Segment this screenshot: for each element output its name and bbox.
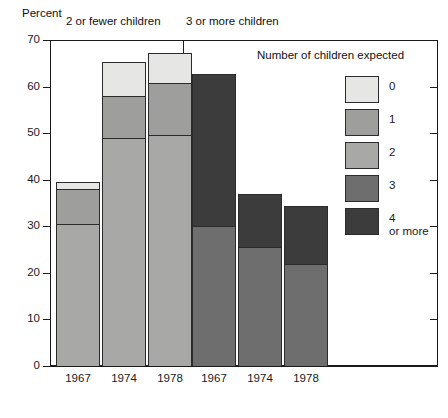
- bar-segment-0: [56, 182, 100, 190]
- bar-segment-1: [148, 83, 192, 137]
- y-tick-mark: [43, 273, 51, 274]
- y-tick-mark: [43, 87, 51, 88]
- y-axis-line: [50, 40, 51, 366]
- y-tick-mark-right: [430, 180, 438, 181]
- bar-segment-3: [284, 264, 328, 367]
- group-label-two-or-fewer: 2 or fewer children: [66, 16, 161, 27]
- legend-label: 3: [389, 179, 395, 192]
- y-tick-label: 70: [8, 34, 40, 46]
- y-tick-label: 0: [8, 360, 40, 372]
- y-tick-mark-right: [430, 87, 438, 88]
- legend-label: 1: [389, 113, 395, 126]
- bar-segment-1: [56, 189, 100, 225]
- y-tick-mark: [43, 133, 51, 134]
- bar-segment-2: [148, 135, 192, 367]
- y-tick-mark-right: [430, 273, 438, 274]
- bar-segment-0: [102, 62, 146, 97]
- x-axis-label: 1978: [278, 372, 334, 384]
- legend-label: 4: [389, 212, 395, 225]
- y-tick-mark: [43, 180, 51, 181]
- x-axis-line: [50, 366, 438, 367]
- legend-swatch: [345, 109, 379, 136]
- bar-3-or-more-children-1967: [192, 74, 236, 366]
- legend-swatch: [345, 142, 379, 169]
- group-label-three-or-more: 3 or more children: [186, 16, 279, 27]
- bar-segment-4-or-more: [238, 194, 282, 249]
- y-tick-label: 40: [8, 174, 40, 186]
- y-axis-ticks: 010203040506070: [0, 0, 50, 418]
- y-tick-mark: [43, 226, 51, 227]
- bar-segment-3: [238, 247, 282, 367]
- bar-segment-0: [148, 53, 192, 84]
- bar-3-or-more-children-1974: [238, 194, 282, 366]
- bar-3-or-more-children-1978: [284, 206, 328, 366]
- legend-swatch: [345, 175, 379, 202]
- bar-segment-2: [56, 224, 100, 367]
- y-tick-label: 10: [8, 313, 40, 325]
- y-tick-label: 30: [8, 220, 40, 232]
- y-tick-label: 50: [8, 127, 40, 139]
- bar-segment-4-or-more: [284, 206, 328, 264]
- legend-label-secondary: or more: [389, 225, 429, 238]
- y-tick-mark-right: [430, 319, 438, 320]
- legend-title: Number of children expected: [257, 50, 404, 61]
- legend-swatch: [345, 208, 379, 235]
- bar-2-or-fewer-children-1967: [56, 182, 100, 366]
- bar-2-or-fewer-children-1978: [148, 53, 192, 366]
- y-tick-mark-right: [430, 133, 438, 134]
- legend-label: 2: [389, 146, 395, 159]
- stacked-bar-chart: Percent 2 or fewer children 3 or more ch…: [0, 0, 448, 418]
- y-tick-mark-right: [430, 226, 438, 227]
- bar-segment-3: [192, 226, 236, 367]
- bar-segment-1: [102, 96, 146, 139]
- y-tick-mark: [43, 40, 51, 41]
- bar-segment-4-or-more: [192, 74, 236, 228]
- legend-label: 0: [389, 80, 395, 93]
- y-tick-mark: [43, 319, 51, 320]
- y-tick-label: 60: [8, 81, 40, 93]
- y-tick-label: 20: [8, 267, 40, 279]
- bar-2-or-fewer-children-1974: [102, 62, 146, 366]
- legend-swatch: [345, 76, 379, 103]
- bar-segment-2: [102, 138, 146, 367]
